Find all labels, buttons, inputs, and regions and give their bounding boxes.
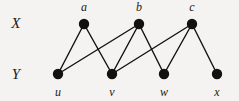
set-label-Y: Y bbox=[12, 66, 21, 83]
vertex-label-x: x bbox=[214, 85, 219, 100]
vertex-a bbox=[79, 19, 89, 29]
vertex-b bbox=[134, 19, 144, 29]
vertex-label-u: u bbox=[55, 85, 61, 100]
edge-b-u bbox=[58, 24, 139, 74]
vertex-label-w: w bbox=[160, 85, 168, 100]
vertex-layer bbox=[53, 19, 222, 79]
edge-c-v bbox=[112, 24, 192, 74]
set-label-X: X bbox=[11, 15, 20, 32]
vertex-w bbox=[159, 69, 169, 79]
edge-layer bbox=[58, 24, 217, 74]
edge-c-x bbox=[192, 24, 217, 74]
vertex-label-b: b bbox=[136, 0, 142, 15]
vertex-u bbox=[53, 69, 63, 79]
vertex-label-a: a bbox=[81, 0, 87, 15]
edge-c-w bbox=[164, 24, 192, 74]
vertex-label-v: v bbox=[109, 85, 114, 100]
vertex-c bbox=[187, 19, 197, 29]
edge-b-v bbox=[112, 24, 139, 74]
vertex-x bbox=[212, 69, 222, 79]
vertex-label-c: c bbox=[189, 0, 194, 15]
vertex-v bbox=[107, 69, 117, 79]
bipartite-graph-figure: XY abcuvwx bbox=[0, 0, 239, 101]
graph-canvas bbox=[0, 0, 239, 101]
